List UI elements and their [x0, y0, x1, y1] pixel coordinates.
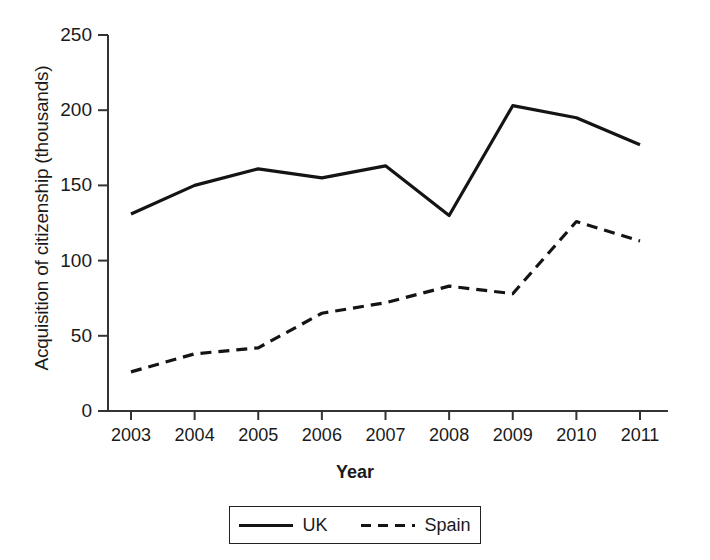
x-axis-tick-label: 2011	[605, 425, 675, 446]
legend-entry-uk[interactable]: UK	[239, 516, 327, 534]
x-axis-tick-label: 2010	[541, 425, 611, 446]
x-axis-tick-label: 2005	[223, 425, 293, 446]
x-axis-ticks	[131, 411, 640, 420]
legend-label: UK	[302, 516, 327, 534]
x-axis-tick-label: 2003	[96, 425, 166, 446]
x-axis-tick-label: 2007	[351, 425, 421, 446]
x-axis-tick-label: 2004	[160, 425, 230, 446]
x-axis-tick-label: 2008	[414, 425, 484, 446]
legend-dashed-line-icon	[361, 524, 415, 527]
data-series-group	[131, 106, 640, 372]
series-line-uk	[131, 106, 640, 216]
x-axis-tick-label: 2006	[287, 425, 357, 446]
line-chart-figure: Acquisition of citizenship (thousands) 0…	[0, 0, 710, 560]
x-axis-title: Year	[0, 462, 710, 483]
legend-solid-line-icon	[239, 524, 293, 527]
chart-legend: UKSpain	[229, 506, 481, 544]
series-line-spain	[131, 221, 640, 371]
x-axis-tick-label: 2009	[478, 425, 548, 446]
legend-label: Spain	[424, 516, 470, 534]
legend-entry-spain[interactable]: Spain	[361, 516, 470, 534]
y-axis-ticks	[98, 35, 108, 411]
